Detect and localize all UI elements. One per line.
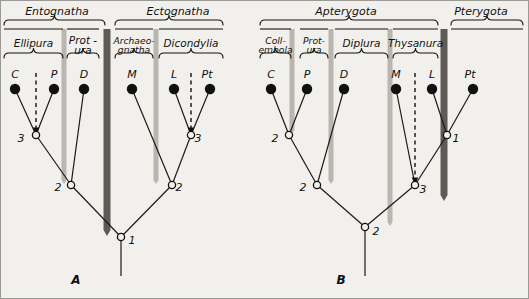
panel-A: EntognathaEctognathaEllipuraProt -uraArc… <box>4 5 223 287</box>
node-number-B-2: 2 <box>300 181 307 194</box>
group-bracket-apterygota-curve <box>260 15 438 25</box>
branch-B-2 <box>289 135 317 185</box>
group-label-pterygota: Pterygota <box>454 5 508 18</box>
node-number-A-3: 3 <box>18 132 25 145</box>
dark-bar-tip <box>104 230 111 236</box>
node-circle-A-3 <box>32 131 39 138</box>
group-bracket-entognatha <box>4 15 105 25</box>
dark-bar-A-0 <box>104 29 111 236</box>
node-circle-A-1 <box>67 181 74 188</box>
branch-A-4 <box>71 185 121 237</box>
tip-label-B-L: L <box>429 68 435 81</box>
branch-A-6 <box>121 185 172 237</box>
tip-label-A-M: M <box>127 68 137 81</box>
tip-dot-A-Pt <box>205 84 215 94</box>
light-bar-B-2 <box>388 29 393 226</box>
node-number-A-4: 3 <box>195 132 202 145</box>
light-bar-body <box>154 29 159 180</box>
taxon-bracket-dicondylia-curve <box>159 48 223 58</box>
branch-A-0 <box>15 89 36 135</box>
taxon-bracket-dicondylia <box>159 48 223 58</box>
tip-label-B-M: M <box>391 68 401 81</box>
node-circle-A-0 <box>117 233 124 240</box>
dark-bar-tip <box>441 195 448 201</box>
tip-dot-B-P <box>302 84 312 94</box>
node-number-A-2: 2 <box>176 181 183 194</box>
group-bracket-entognatha-curve <box>4 15 105 25</box>
tip-dot-A-P <box>49 84 59 94</box>
node-circle-B-4 <box>411 181 418 188</box>
arrow-A-0 <box>33 73 39 135</box>
taxon-label-diplura: Diplura <box>343 37 381 49</box>
tip-dot-A-M <box>127 84 137 94</box>
tip-dot-A-D <box>79 84 89 94</box>
light-bar-body <box>62 29 67 180</box>
arrow-A-1 <box>188 73 194 135</box>
taxon-label-dicondylia: Dicondylia <box>163 37 218 49</box>
dark-bar-B-0 <box>441 29 448 201</box>
node-number-B-3: 2 <box>373 225 380 238</box>
tip-label-A-Pt: Pt <box>202 68 214 81</box>
branch-A-5 <box>132 89 172 185</box>
tip-label-A-L: L <box>171 68 177 81</box>
branch-B-4 <box>317 185 365 227</box>
group-label-apterygota: Apterygota <box>314 5 377 18</box>
branch-A-9 <box>172 135 191 185</box>
light-bar-A-1 <box>154 29 159 184</box>
panel-letter-B: B <box>336 273 345 287</box>
tip-dot-B-M <box>391 84 401 94</box>
panel-letter-A: A <box>70 273 80 287</box>
taxon-bracket-thysanura-curve <box>393 48 438 58</box>
light-bar-A-0 <box>62 29 67 184</box>
tip-label-A-P: P <box>51 68 58 81</box>
group-label-entognatha: Entognatha <box>25 5 89 18</box>
taxon-bracket-thysanura <box>393 48 438 58</box>
light-bar-tip <box>62 180 67 184</box>
taxon-bracket-ellipura <box>4 48 63 58</box>
node-number-B-0: 1 <box>453 132 460 145</box>
node-number-B-4: 3 <box>420 183 427 196</box>
light-bar-tip <box>388 222 393 226</box>
light-bar-tip <box>329 180 334 184</box>
tip-label-A-D: D <box>80 68 88 81</box>
dark-bar-body <box>104 29 111 230</box>
light-bar-B-1 <box>329 29 334 184</box>
branch-B-0 <box>271 89 289 135</box>
tip-label-B-D: D <box>340 68 348 81</box>
node-circle-B-0 <box>443 131 450 138</box>
branch-B-8 <box>447 89 473 135</box>
light-bar-body <box>329 29 334 180</box>
node-number-B-1: 2 <box>272 132 279 145</box>
node-number-A-1: 2 <box>55 181 62 194</box>
panel-B: ApterygotaPterygotaColl-embolaProt-uraDi… <box>258 5 523 287</box>
tip-dot-A-L <box>169 84 179 94</box>
taxon-label-ellipura: Ellipura <box>14 37 53 49</box>
node-circle-B-3 <box>361 223 368 230</box>
group-bracket-apterygota <box>260 15 438 25</box>
branch-B-5 <box>396 89 415 185</box>
taxon-bracket-diplura <box>335 48 388 58</box>
tip-dot-B-C <box>266 84 276 94</box>
dark-bar-body <box>441 29 448 195</box>
taxon-bracket-diplura-curve <box>335 48 388 58</box>
tip-label-B-C: C <box>267 68 275 81</box>
node-number-A-0: 1 <box>129 234 136 247</box>
tip-dot-B-L <box>427 84 437 94</box>
tip-label-B-Pt: Pt <box>465 68 477 81</box>
taxon-label-thysanura: Thysanura <box>388 37 443 49</box>
phylogeny-diagram: EntognathaEctognathaEllipuraProt -uraArc… <box>1 1 528 298</box>
taxon-bracket-ellipura-curve <box>4 48 63 58</box>
tip-label-A-C: C <box>11 68 19 81</box>
tip-dot-A-C <box>10 84 20 94</box>
tip-dot-B-D <box>339 84 349 94</box>
node-circle-B-2 <box>313 181 320 188</box>
tip-label-B-P: P <box>304 68 311 81</box>
node-circle-B-1 <box>285 131 292 138</box>
group-label-ectognatha: Ectognatha <box>147 5 210 18</box>
tip-dot-B-Pt <box>468 84 478 94</box>
light-bar-tip <box>154 180 159 184</box>
arrow-B-0 <box>412 73 418 185</box>
branch-A-3 <box>71 89 84 185</box>
figure-container: EntognathaEctognathaEllipuraProt -uraArc… <box>0 0 529 299</box>
